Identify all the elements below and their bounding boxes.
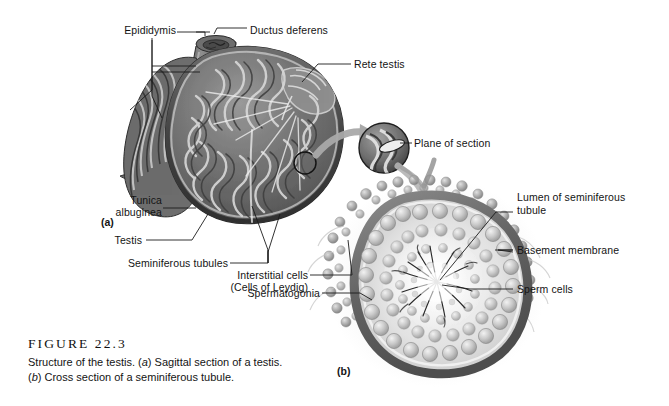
caption-line-2: (b) Cross section of a seminiferous tubu… [28,370,338,385]
label-rete-testis: Rete testis [354,58,405,71]
label-epididymis: Epididymis [66,24,176,37]
label-basement-membrane: Basement membrane [517,244,619,257]
caption-1-post: ) Sagittal section of a testis. [148,356,283,368]
panel-letter-b: (b) [337,365,350,377]
label-interstitial-cells-line1: Interstitial cells [194,269,308,282]
caption-2-post: ) Cross section of a seminiferous tubule… [38,371,234,383]
label-lumen-line1: Lumen of seminiferous [517,191,625,204]
figure-number: FIGURE 22.3 [28,336,338,352]
figure-caption-block: FIGURE 22.3 Structure of the testis. (a)… [28,336,338,384]
label-seminiferous-tubules: Seminiferous tubules [108,257,228,270]
label-lumen-line2: tubule [517,204,546,217]
label-tunica-albuginea-line1: Tunica [86,194,162,207]
label-plane-of-section: Plane of section [414,137,490,150]
testis-body [165,47,343,224]
label-testis: Testis [86,234,142,247]
caption-1-pre: Structure of the testis. ( [28,356,142,368]
caption-line-1: Structure of the testis. (a) Sagittal se… [28,355,338,370]
panel-letter-a: (a) [101,216,114,228]
label-ductus-deferens: Ductus deferens [250,24,328,37]
label-spermatogonia: Spermatogonia [232,287,320,300]
label-tunica-albuginea-line2: albuginea [86,206,162,219]
label-sperm-cells: Sperm cells [517,283,573,296]
